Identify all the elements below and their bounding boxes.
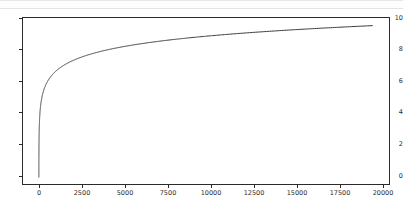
log-curve-plot bbox=[23, 18, 389, 184]
y-tick-label: 6 bbox=[385, 76, 403, 86]
x-tick-label: 10000 bbox=[201, 188, 222, 198]
x-tick-label: 20000 bbox=[373, 188, 394, 198]
x-tick-label: 15000 bbox=[287, 188, 308, 198]
x-tick-mark bbox=[254, 185, 255, 188]
panel-top-band bbox=[0, 0, 403, 9]
y-tick-mark bbox=[19, 112, 22, 113]
y-tick-mark bbox=[19, 81, 22, 82]
x-tick-label: 5000 bbox=[117, 188, 134, 198]
x-tick-mark bbox=[82, 185, 83, 188]
x-tick-mark bbox=[39, 185, 40, 188]
chart-screenshot: 10 8 6 4 2 0 0 2500 5000 7500 10000 1250… bbox=[0, 0, 403, 203]
x-tick-mark bbox=[340, 185, 341, 188]
x-tick-mark bbox=[383, 185, 384, 188]
y-tick-label: 0 bbox=[385, 171, 403, 181]
x-tick-mark bbox=[168, 185, 169, 188]
y-tick-label: 2 bbox=[385, 139, 403, 149]
y-tick-mark bbox=[19, 49, 22, 50]
y-tick-label: 10 bbox=[385, 13, 403, 23]
x-tick-label: 17500 bbox=[330, 188, 351, 198]
x-tick-mark bbox=[297, 185, 298, 188]
x-tick-mark bbox=[125, 185, 126, 188]
x-tick-mark bbox=[211, 185, 212, 188]
figure-canvas: 10 8 6 4 2 0 0 2500 5000 7500 10000 1250… bbox=[0, 9, 403, 203]
series-line-ln-x bbox=[39, 26, 372, 177]
y-tick-mark bbox=[19, 176, 22, 177]
x-tick-label: 7500 bbox=[160, 188, 177, 198]
y-tick-label: 4 bbox=[385, 107, 403, 117]
x-tick-label: 2500 bbox=[74, 188, 91, 198]
x-tick-label: 12500 bbox=[244, 188, 265, 198]
plot-axes-frame bbox=[22, 17, 390, 185]
x-tick-label: 0 bbox=[37, 188, 41, 198]
y-tick-mark bbox=[19, 18, 22, 19]
y-tick-label: 8 bbox=[385, 44, 403, 54]
y-tick-mark bbox=[19, 144, 22, 145]
